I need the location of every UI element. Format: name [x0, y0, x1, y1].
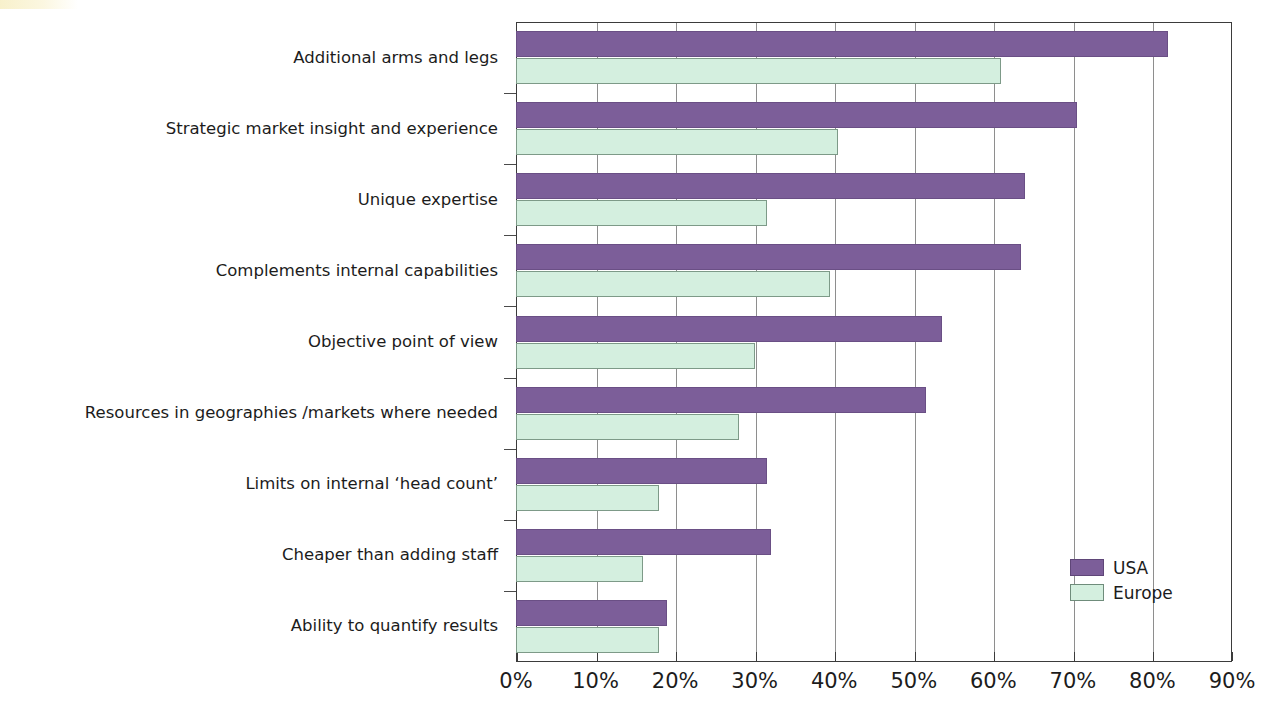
x-axis-label-10%: 10% [572, 668, 619, 694]
category-tick-0 [504, 93, 516, 94]
x-axis-label-0%: 0% [499, 668, 532, 694]
category-axis-labels: Additional arms and legsStrategic market… [0, 22, 508, 662]
x-axis-label-90%: 90% [1209, 668, 1256, 694]
bar-usa-2 [516, 173, 1025, 199]
category-label-8: Ability to quantify results [291, 616, 498, 635]
legend-label-usa: USA [1113, 558, 1148, 578]
bar-europe-0 [516, 58, 1001, 84]
legend-swatch-europe [1070, 584, 1104, 601]
chart-legend: USAEurope [1070, 555, 1192, 613]
bar-usa-8 [516, 600, 667, 626]
value-axis-labels: 0%10%20%30%40%50%60%70%80%90% [0, 668, 1282, 702]
legend-label-europe: Europe [1113, 583, 1173, 603]
bar-usa-0 [516, 31, 1168, 57]
x-axis-label-40%: 40% [811, 668, 858, 694]
category-label-2: Unique expertise [358, 190, 498, 209]
bar-usa-7 [516, 529, 771, 555]
x-axis-label-50%: 50% [890, 668, 937, 694]
x-axis-label-80%: 80% [1129, 668, 1176, 694]
x-axis-label-20%: 20% [652, 668, 699, 694]
legend-item-usa[interactable]: USA [1070, 555, 1192, 580]
category-tick-1 [504, 164, 516, 165]
category-label-4: Objective point of view [308, 332, 498, 351]
bar-usa-5 [516, 387, 926, 413]
category-tick-6 [504, 520, 516, 521]
bar-europe-1 [516, 129, 838, 155]
category-label-3: Complements internal capabilities [216, 261, 498, 280]
bar-europe-2 [516, 200, 767, 226]
x-axis-label-30%: 30% [731, 668, 778, 694]
category-label-6: Limits on internal ‘head count’ [245, 474, 498, 493]
category-label-0: Additional arms and legs [293, 48, 498, 67]
bar-europe-5 [516, 414, 739, 440]
legend-swatch-usa [1070, 559, 1104, 576]
bar-usa-6 [516, 458, 767, 484]
category-tick-2 [504, 235, 516, 236]
category-label-7: Cheaper than adding staff [282, 545, 498, 564]
bar-europe-4 [516, 343, 755, 369]
horizontal-bar-chart: Additional arms and legsStrategic market… [0, 0, 1282, 721]
bar-europe-6 [516, 485, 659, 511]
legend-item-europe[interactable]: Europe [1070, 580, 1192, 605]
bar-europe-3 [516, 271, 830, 297]
x-axis-label-70%: 70% [1050, 668, 1097, 694]
bar-usa-1 [516, 102, 1077, 128]
bar-europe-8 [516, 627, 659, 653]
category-tick-3 [504, 306, 516, 307]
bar-europe-7 [516, 556, 643, 582]
bar-usa-3 [516, 244, 1021, 270]
category-label-5: Resources in geographies /markets where … [85, 403, 498, 422]
category-tick-4 [504, 378, 516, 379]
category-label-1: Strategic market insight and experience [166, 119, 498, 138]
x-axis-label-60%: 60% [970, 668, 1017, 694]
bar-usa-4 [516, 316, 942, 342]
x-tick-90% [1232, 652, 1233, 661]
category-tick-7 [504, 591, 516, 592]
category-tick-5 [504, 449, 516, 450]
